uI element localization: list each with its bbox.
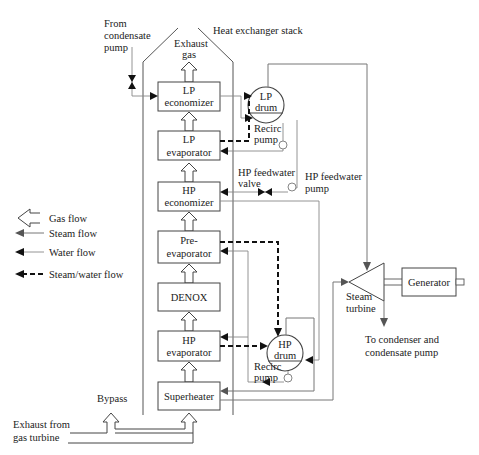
lp-recirc-pump-label-1: Recirc <box>254 123 282 134</box>
legend-water-flow: Water flow <box>15 247 96 258</box>
svg-text:economizer: economizer <box>165 197 214 208</box>
from-condensate-label-2: condensate <box>104 30 151 41</box>
gas-arrow-icon <box>181 362 197 382</box>
bypass-label: Bypass <box>97 393 127 404</box>
lp-econ-to-drum-line <box>220 96 248 118</box>
steam-arrow-icon <box>15 229 24 237</box>
svg-text:economizer: economizer <box>165 97 214 108</box>
water-arrow-icon <box>305 356 313 364</box>
pre-evap-to-drum-line <box>220 242 278 330</box>
to-condenser-label-1: To condenser and <box>365 334 440 345</box>
valve-icon <box>128 75 136 89</box>
exhaust-inlet-gas-flow <box>68 413 197 443</box>
lp-recirc-return-line <box>226 149 283 151</box>
svg-text:Gas flow: Gas flow <box>49 213 88 224</box>
steam-arrow-icon <box>363 262 371 271</box>
svg-text:Steam/water flow: Steam/water flow <box>49 269 124 280</box>
lp-recirc-pump-icon <box>279 141 287 149</box>
hp-econ-to-drum-line <box>220 201 319 360</box>
lp-recirc-pump-label-2: pump <box>254 134 278 145</box>
legend-steam-water-flow: Steam/water flow <box>15 269 124 280</box>
svg-text:evaporator: evaporator <box>167 147 212 158</box>
gas-arrow-icon <box>181 163 197 182</box>
generator-shaft-stub <box>456 279 464 285</box>
stack-component-lp-economizer: LP economizer <box>158 82 220 111</box>
exhaust-from-gt-label-1: Exhaust from <box>13 419 70 430</box>
stack-component-lp-evaporator: LP evaporator <box>158 131 220 160</box>
hp-feedwater-pump-label-2: pump <box>305 183 329 194</box>
hp-feedwater-pump-icon <box>288 183 296 191</box>
steam-water-arrow-icon <box>260 342 268 350</box>
heat-exchanger-stack-label: Heat exchanger stack <box>213 25 304 36</box>
legend-gas-flow: Gas flow <box>18 209 88 227</box>
svg-text:Superheater: Superheater <box>164 391 215 402</box>
exhaust-gas-label-2: gas <box>182 49 196 60</box>
svg-text:evaporator: evaporator <box>167 248 212 259</box>
gas-arrow-icon <box>181 112 197 131</box>
exhaust-gas-label-1: Exhaust <box>174 38 208 49</box>
steam-turbine-label-2: turbine <box>346 303 376 314</box>
lp-drum: LP drum <box>248 87 284 123</box>
stack-component-denox: DENOX <box>158 283 220 311</box>
water-arrow-icon <box>220 333 228 341</box>
svg-text:drum: drum <box>255 102 277 113</box>
hp-feedwater-pump-label-1: HP feedwater <box>305 171 363 182</box>
water-arrow-icon <box>220 147 228 155</box>
water-arrow-icon <box>15 248 24 256</box>
svg-text:Water flow: Water flow <box>49 247 96 258</box>
steam-turbine-label-1: Steam <box>346 291 372 302</box>
gas-arrow-icon <box>181 312 197 331</box>
hp-recirc-pump-label-1: Recirc <box>254 361 282 372</box>
water-arrow-icon <box>150 92 158 100</box>
from-condensate-label-3: pump <box>104 42 128 53</box>
water-arrow-icon <box>220 188 228 196</box>
svg-text:evaporator: evaporator <box>167 347 212 358</box>
hp-feedwater-valve-label-2: valve <box>238 178 261 189</box>
gas-arrow-icon <box>181 62 197 82</box>
gas-arrow-icon <box>181 212 197 231</box>
gas-arrow-icon <box>181 264 197 283</box>
stack-component-pre-evaporator: Pre- evaporator <box>158 231 220 263</box>
pre-evap-return-line <box>227 251 248 347</box>
svg-text:DENOX: DENOX <box>171 292 208 303</box>
legend: Gas flow Steam flow Water flow Steam/wat… <box>15 209 124 280</box>
hp-feedwater-valve-label-1: HP feedwater <box>238 167 296 178</box>
generator: Generator <box>402 268 456 296</box>
hp-recirc-pump-label-2: pump <box>254 372 278 383</box>
steam-arrow-icon <box>341 278 349 286</box>
svg-text:LP: LP <box>183 134 195 145</box>
steam-water-arrow-icon <box>15 270 24 278</box>
from-condensate-label-1: From <box>104 18 127 29</box>
svg-text:HP: HP <box>182 185 196 196</box>
stack-component-superheater: Superheater <box>158 382 220 410</box>
valve-icon <box>258 188 272 196</box>
exhaust-from-gt-label-2: gas turbine <box>13 432 60 443</box>
svg-text:Pre-: Pre- <box>180 235 198 246</box>
svg-text:Generator: Generator <box>408 277 450 288</box>
to-condenser-label-2: condensate pump <box>365 347 438 358</box>
gas-flow-icon <box>18 209 40 227</box>
steam-arrow-icon <box>380 318 388 327</box>
stack-component-hp-evaporator: HP evaporator <box>158 331 220 361</box>
stack-component-hp-economizer: HP economizer <box>158 182 220 211</box>
hp-recirc-pump-icon <box>284 374 292 382</box>
hrsg-diagram: Heat exchanger stack Exhaust gas LP econ… <box>0 0 479 455</box>
svg-text:drum: drum <box>274 350 296 361</box>
svg-text:LP: LP <box>260 91 272 102</box>
svg-text:Steam flow: Steam flow <box>49 228 98 239</box>
steam-arrow-icon <box>220 387 228 395</box>
legend-steam-flow: Steam flow <box>15 228 98 239</box>
lp-evap-to-drum-line <box>220 96 249 141</box>
lp-steam-line <box>268 64 367 265</box>
water-arrow-icon <box>220 247 228 255</box>
svg-text:HP: HP <box>182 335 196 346</box>
svg-text:LP: LP <box>183 85 195 96</box>
svg-text:HP: HP <box>278 339 292 350</box>
